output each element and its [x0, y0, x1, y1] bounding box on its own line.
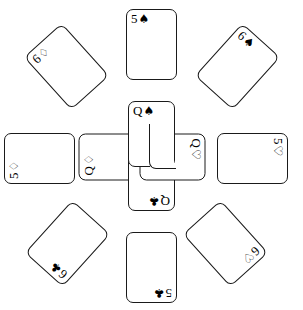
card-layout-canvas: 5 ♠ 6 ♠ 5 ♡ 6 ♡ 5 ♣ 6 ♣	[0, 0, 303, 310]
card-rank: Q	[133, 104, 142, 117]
clubs-icon: ♣	[149, 196, 160, 208]
weave-overlap-edge	[149, 124, 176, 169]
card-index-corner: Q ♢	[82, 154, 95, 175]
diamonds-icon: ♢	[82, 154, 94, 165]
card-index-corner: Q ♡	[190, 139, 203, 160]
card-index-corner: Q ♣	[149, 195, 170, 208]
card-index-corner: Q ♠	[133, 104, 154, 117]
card-rank: Q	[161, 195, 170, 208]
spades-icon: ♠	[143, 105, 154, 117]
card-rank: Q	[82, 166, 95, 175]
card-rank: Q	[190, 139, 203, 148]
hearts-icon: ♡	[190, 149, 202, 160]
four-queens-pinwheel: Q ♢ Q ♣ Q ♡ Q ♠	[0, 0, 303, 310]
